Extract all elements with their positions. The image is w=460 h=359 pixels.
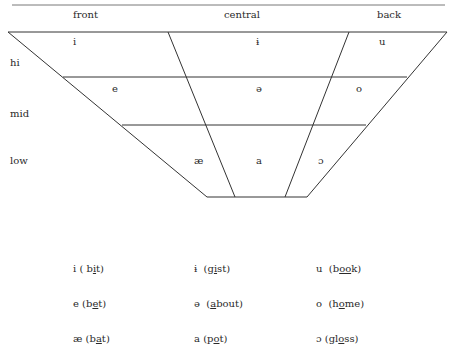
row-label-low: low [10,155,28,166]
example-item: ə (about) [194,298,243,309]
example-word-suffix: k) [351,263,361,274]
example-item: e (bet) [73,298,106,309]
row-label-hi: hi [10,57,20,68]
example-item: i ( bit) [73,263,104,274]
example-item: o (home) [316,298,364,309]
vowel-symbol: a [256,155,262,166]
example-word-prefix: ( b [76,263,93,274]
column-label-front: front [73,9,98,20]
example-item: æ (bat) [73,333,110,344]
example-symbol: æ [73,333,82,344]
example-word-prefix: (b [322,263,339,274]
vowel-symbol: i [73,36,76,47]
example-word-suffix: t) [219,333,227,344]
left-edge [8,32,207,197]
vowel-symbol: ə [256,83,262,94]
example-word-prefix: (g [197,263,214,274]
central-back-divider [285,32,349,197]
vowel-symbol: e [112,83,118,94]
example-word-suffix: ss) [344,333,358,344]
column-label-central: central [224,9,260,20]
example-word-prefix: (b [82,333,95,344]
row-label-mid: mid [10,108,29,119]
example-word-highlight: oo [339,263,351,274]
example-word-prefix: (gl [322,333,339,344]
example-word-suffix: t) [98,298,106,309]
vowel-symbol: æ [194,155,203,166]
front-central-divider [168,32,235,197]
example-word-suffix: bout) [216,298,243,309]
example-word-suffix: me) [345,298,364,309]
example-word-prefix: (h [322,298,339,309]
example-word-prefix: ( [200,298,210,309]
example-item: ɔ (gloss) [316,333,359,344]
vowel-symbol: o [356,83,362,94]
column-label-back: back [377,9,401,20]
vowel-symbol: u [379,36,385,47]
example-word-prefix: (b [79,298,92,309]
example-item: u (book) [316,263,361,274]
example-item: a (pot) [194,333,227,344]
example-word-suffix: t) [96,263,104,274]
vowel-symbol: ɔ [318,155,324,166]
example-word-suffix: st) [217,263,230,274]
example-word-prefix: (p [200,333,213,344]
right-edge [307,32,447,197]
example-word-suffix: t) [102,333,110,344]
vowel-symbol: ɨ [256,36,259,47]
example-item: ɨ (gist) [194,263,230,274]
